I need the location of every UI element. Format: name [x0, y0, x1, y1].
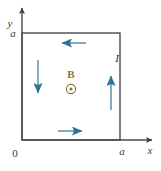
figure-canvas: y x 0 a a I B — [0, 0, 161, 171]
physics-figure: y x 0 a a I B — [0, 0, 161, 171]
field-dot — [69, 87, 72, 90]
current-loop-outline — [22, 33, 120, 140]
axis-group — [22, 8, 152, 140]
y-tick-label-a: a — [10, 27, 16, 39]
x-tick-label-a: a — [119, 145, 125, 157]
current-arrow-group — [38, 43, 111, 131]
current-label: I — [114, 52, 120, 64]
loop-square — [22, 33, 120, 140]
magnetic-field-label: B — [67, 68, 75, 80]
origin-label: 0 — [12, 147, 18, 159]
magnetic-field-out-of-page-icon — [66, 84, 75, 93]
x-axis-label: x — [147, 144, 153, 156]
